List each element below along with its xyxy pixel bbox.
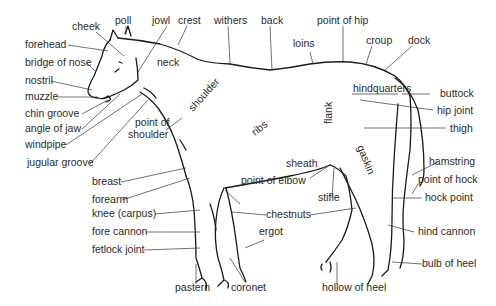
label-windpipe: windpipe — [24, 138, 67, 150]
label-breast: breast — [92, 175, 121, 187]
label-croup: croup — [366, 34, 392, 46]
label-chin-groove: chin groove — [25, 107, 79, 119]
label-knee-carpus: knee (carpus) — [92, 207, 156, 219]
label-ergot: ergot — [259, 225, 283, 237]
label-shoulder: shoulder — [186, 75, 222, 113]
label-hollow-of-heel: hollow of heel — [322, 281, 386, 293]
label-forearm: forearm — [92, 193, 128, 205]
label-neck: neck — [157, 56, 180, 68]
label-forehead: forehead — [25, 38, 67, 50]
label-poll: poll — [115, 14, 131, 26]
label-fore-cannon: fore cannon — [92, 225, 148, 237]
label-coronet: coronet — [231, 281, 266, 293]
label-point-of-hock: point of hock — [418, 173, 478, 185]
horse-points-diagram: poll jowl crest withers back point of hi… — [0, 0, 496, 306]
label-point-of-shoulder-line1: point of — [135, 116, 170, 128]
label-hind-cannon: hind cannon — [418, 225, 475, 237]
label-fetlock-joint: fetlock joint — [92, 243, 145, 255]
label-jowl: jowl — [151, 14, 170, 26]
label-chestnuts: chestnuts — [266, 208, 311, 220]
label-bridge-of-nose: bridge of nose — [25, 56, 92, 68]
label-point-of-elbow: point of elbow — [241, 174, 306, 186]
label-nostril: nostril — [25, 74, 53, 86]
label-bulb-of-heel: bulb of heel — [422, 257, 476, 269]
label-loins: loins — [293, 37, 315, 49]
label-dock: dock — [408, 34, 431, 46]
label-hindquarters: hindquarters — [353, 82, 411, 94]
label-gaskin: gaskin — [355, 143, 378, 176]
label-cheek: cheek — [72, 20, 101, 32]
label-hamstring: hamstring — [429, 155, 475, 167]
label-stifle: stifle — [318, 191, 340, 203]
label-hock-point: hock point — [425, 191, 473, 203]
label-flank: flank — [322, 101, 334, 124]
label-ribs: ribs — [249, 118, 270, 138]
label-angle-of-jaw: angle of jaw — [25, 122, 81, 134]
label-back: back — [261, 14, 284, 26]
label-muzzle: muzzle — [25, 90, 58, 102]
label-thigh: thigh — [450, 122, 473, 134]
label-sheath: sheath — [286, 157, 318, 169]
label-withers: withers — [213, 14, 247, 26]
label-pastern: pastern — [175, 281, 210, 293]
label-crest: crest — [178, 14, 201, 26]
label-hip-joint: hip joint — [437, 104, 473, 116]
label-buttock: buttock — [440, 87, 475, 99]
label-point-of-shoulder-line2: shoulder — [128, 128, 169, 140]
label-jugular-groove: jugular groove — [26, 156, 94, 168]
label-point-of-hip: point of hip — [317, 14, 369, 26]
